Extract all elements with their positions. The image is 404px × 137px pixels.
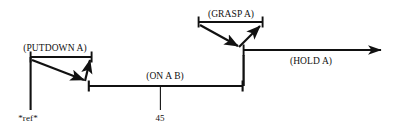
interval-timeline-diagram: (PUTDOWN A) (GRASP A) (ON A B) (HOLD A) …: [0, 0, 404, 137]
grasp-end-arrow: [239, 26, 260, 47]
putdown-relation-arrows: [32, 60, 90, 81]
grasp-start-arrow: [200, 25, 238, 46]
diagram-canvas: [0, 0, 404, 137]
putdown-start-arrow: [32, 60, 84, 80]
interval-on-a-b: [88, 81, 243, 92]
label-putdown-a: (PUTDOWN A): [23, 44, 87, 54]
putdown-end-arrow: [85, 60, 90, 81]
label-grasp-a: (GRASP A): [208, 10, 254, 20]
label-hold-a: (HOLD A): [290, 57, 332, 67]
label-ref-marker: *ref*: [18, 114, 38, 123]
label-time-45: 45: [155, 114, 164, 123]
interval-hold-a: [243, 45, 381, 56]
label-on-a-b: (ON A B): [146, 72, 184, 82]
grasp-relation-arrows: [200, 25, 260, 47]
